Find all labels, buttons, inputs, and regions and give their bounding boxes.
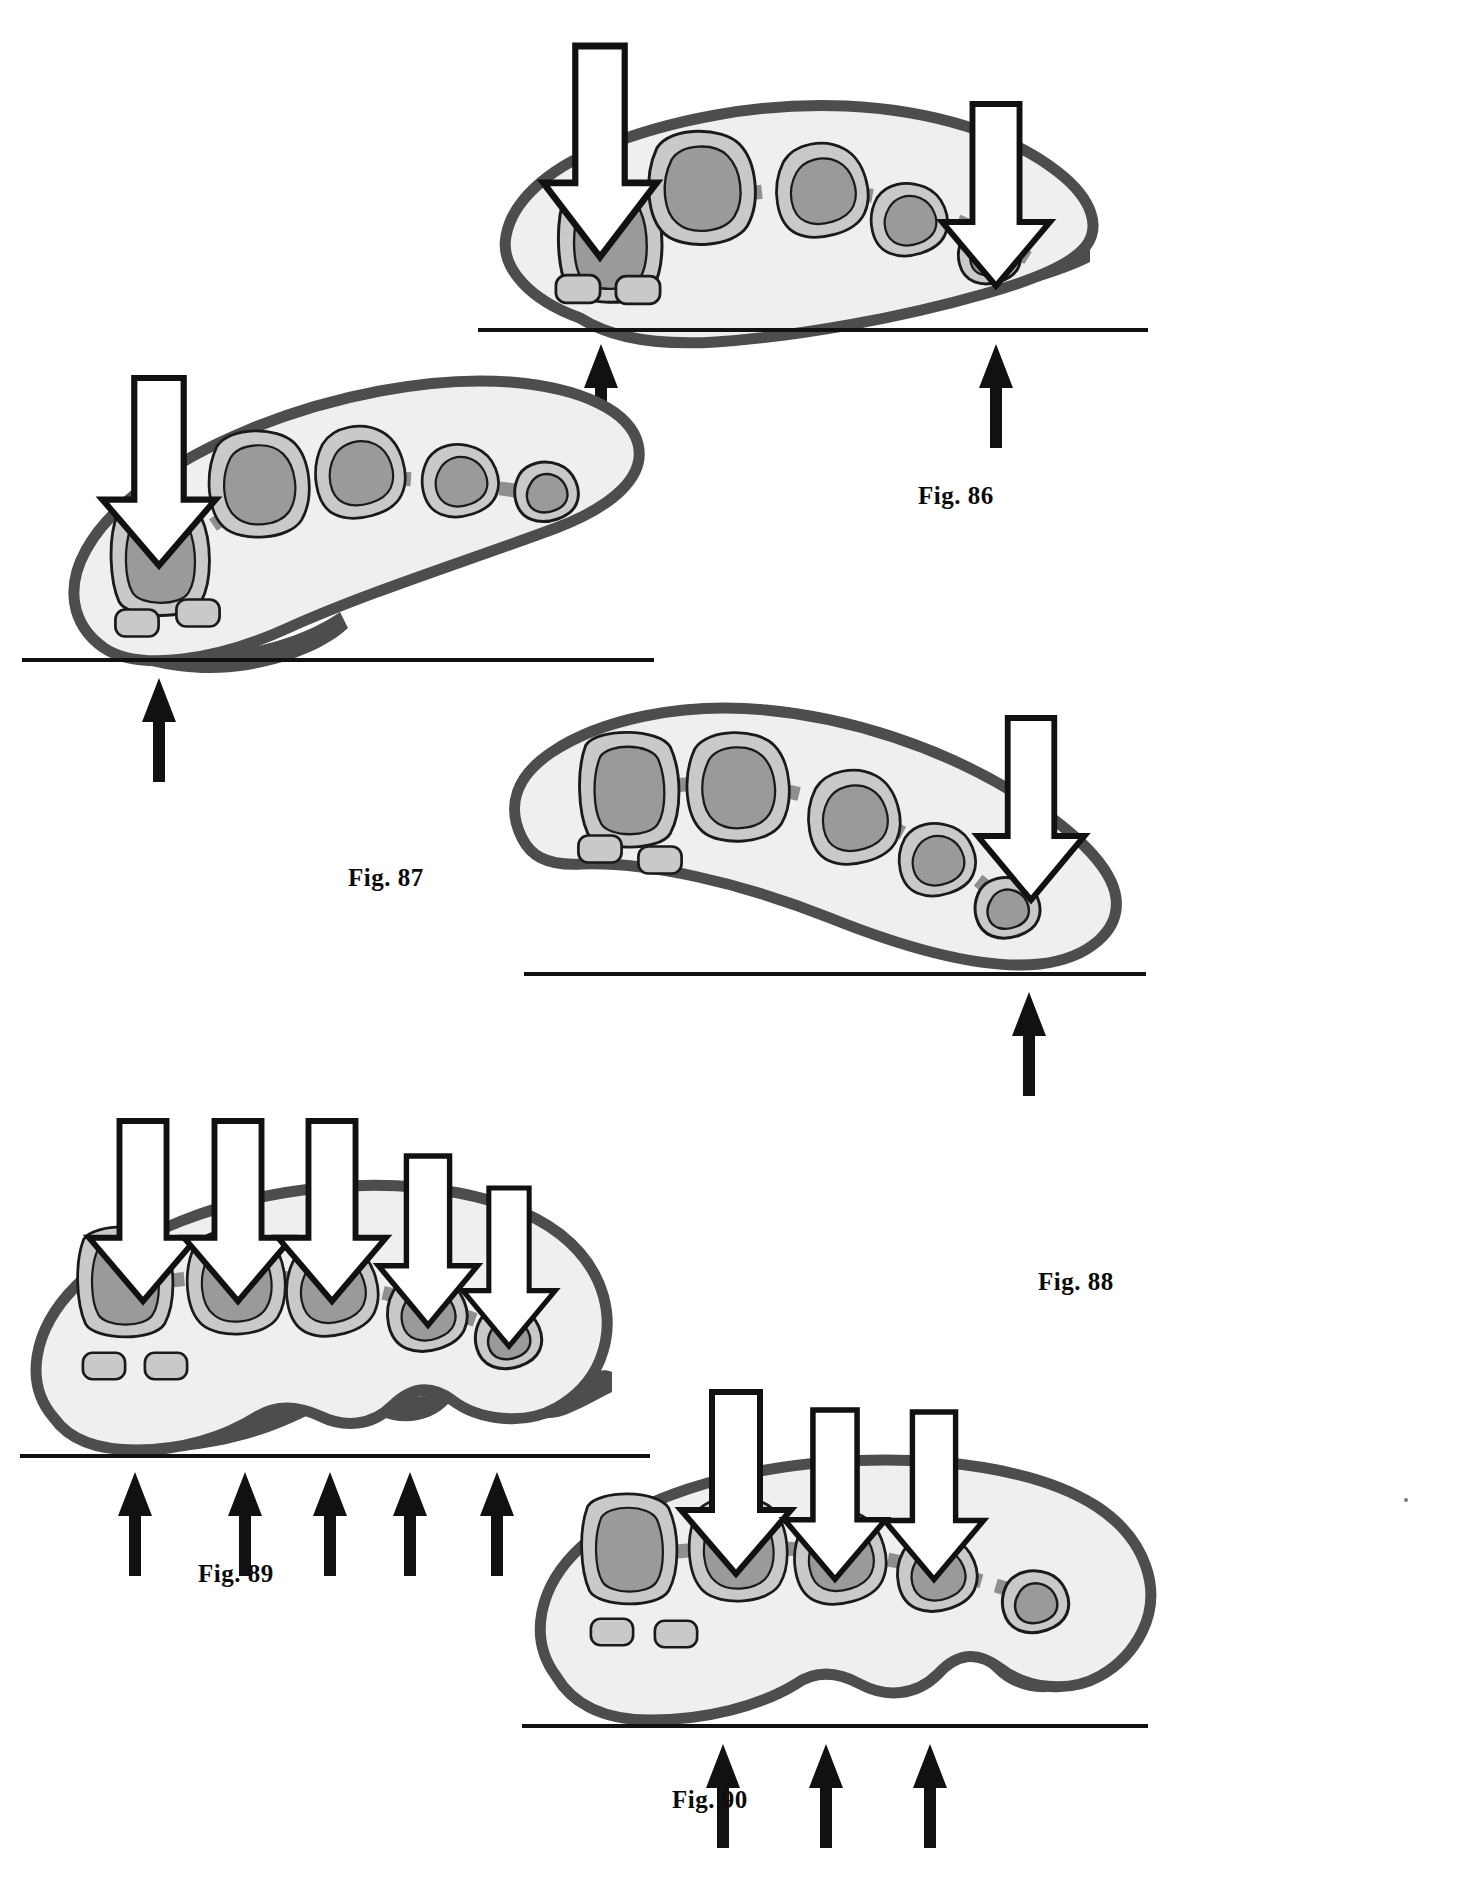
fig88-sesamoid-medial	[578, 836, 621, 863]
fig89-reaction-arrow-1	[118, 1472, 152, 1576]
fig87-metatarsal-head-2	[209, 431, 309, 537]
figures-canvas	[0, 0, 1466, 1896]
figure-88	[515, 708, 1146, 1096]
fig89-sesamoid-lateral	[145, 1353, 187, 1379]
fig90-metatarsal-head-5	[1002, 1571, 1068, 1633]
fig88-metatarsal-head-4	[899, 823, 975, 895]
fig87-metatarsal-head-5	[515, 462, 579, 521]
figure-86	[478, 46, 1148, 448]
fig89-reaction-arrow-5	[480, 1472, 514, 1576]
figure-90	[522, 1392, 1151, 1848]
fig89-reaction-arrow-3	[313, 1472, 347, 1576]
scan-speck	[1404, 1498, 1408, 1502]
fig86-sesamoid-lateral	[616, 276, 660, 304]
fig90-sesamoid-lateral	[655, 1621, 697, 1647]
fig87-reaction-arrow-1	[142, 678, 176, 782]
fig88-reaction-arrow-1	[1012, 992, 1046, 1096]
fig89-reaction-arrow-4	[393, 1472, 427, 1576]
fig86-metatarsal-head-4	[871, 183, 947, 255]
fig88-metatarsal-head-2	[687, 733, 789, 842]
fig86-metatarsal-head-3	[777, 143, 868, 237]
fig86-sesamoid-medial	[556, 275, 600, 303]
fig87-metatarsal-head-3	[316, 426, 405, 518]
fig87-sesamoid-medial	[115, 610, 158, 637]
fig88-sesamoid-lateral	[638, 847, 681, 874]
figure-89	[20, 1121, 650, 1576]
fig88-metatarsal-head-3	[809, 770, 900, 864]
fig86-reaction-arrow-2	[979, 344, 1013, 448]
fig87-metatarsal-head-4	[422, 444, 498, 516]
figure-87	[22, 378, 654, 782]
fig-90-caption: Fig. 90	[672, 1786, 748, 1814]
fig90-reaction-arrow-3	[913, 1744, 947, 1848]
fig-87-caption: Fig. 87	[348, 864, 424, 892]
fig90-metatarsal-head-1	[582, 1494, 677, 1604]
fig-86-caption: Fig. 86	[918, 482, 994, 510]
fig90-reaction-arrow-2	[809, 1744, 843, 1848]
fig88-metatarsal-head-1	[580, 732, 679, 847]
fig90-sesamoid-medial	[591, 1619, 633, 1645]
fig89-sesamoid-medial	[83, 1353, 125, 1379]
patent-drawing-sheet: Fig. 86 Fig. 87 Fig. 88 Fig. 89 Fig. 90	[0, 0, 1466, 1896]
fig87-sesamoid-lateral	[176, 600, 219, 627]
fig86-metatarsal-head-2	[649, 131, 756, 244]
fig-88-caption: Fig. 88	[1038, 1268, 1114, 1296]
fig-89-caption: Fig. 89	[198, 1560, 274, 1588]
